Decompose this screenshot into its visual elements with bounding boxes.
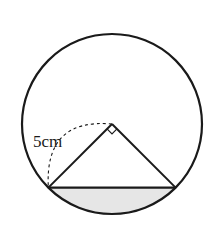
right-angle-marker — [107, 129, 117, 134]
shaded-segment — [48, 188, 175, 214]
radius-label: 5cm — [33, 132, 62, 151]
radius-right — [112, 124, 176, 188]
geometry-diagram: 5cm — [0, 0, 220, 243]
